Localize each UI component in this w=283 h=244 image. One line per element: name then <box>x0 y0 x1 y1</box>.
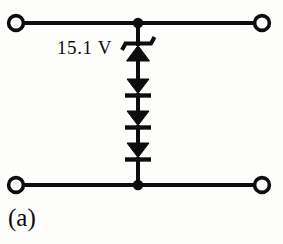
bottom-right-terminal <box>255 178 270 193</box>
zener-voltage-label: 15.1 V <box>57 38 112 57</box>
circuit-figure: 15.1 V (a) <box>0 0 283 244</box>
top-right-terminal <box>255 16 270 31</box>
figure-caption: (a) <box>8 205 36 230</box>
circuit-schematic <box>0 0 283 244</box>
diode-3-anode-triangle <box>127 143 149 158</box>
diode-1 <box>125 79 151 96</box>
bottom-left-terminal <box>9 178 24 193</box>
bottom-node-junction-dot <box>133 180 143 190</box>
diode-1-anode-triangle <box>127 79 149 94</box>
top-node-junction-dot <box>133 18 143 28</box>
diode-3 <box>125 143 151 160</box>
zener-anode-triangle <box>127 46 150 62</box>
diode-2 <box>125 111 151 128</box>
diode-2-anode-triangle <box>127 111 149 126</box>
top-left-terminal <box>9 16 24 31</box>
